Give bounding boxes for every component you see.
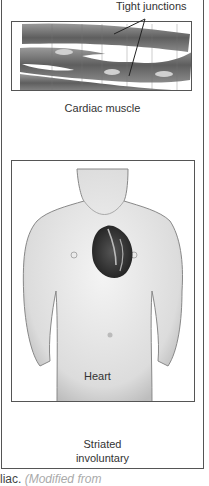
figure-footer-caption: liac. (Modified from xyxy=(0,472,101,486)
footer-caption-prefix: liac. xyxy=(0,472,21,486)
type-label-involuntary: involuntary xyxy=(0,452,205,464)
leader-lines xyxy=(0,0,209,100)
heart-torso-illustration xyxy=(11,160,195,402)
type-label-striated: Striated xyxy=(0,438,205,450)
cardiac-muscle-caption: Cardiac muscle xyxy=(0,102,205,114)
heart-label: Heart xyxy=(84,370,111,382)
torso-with-heart-icon xyxy=(12,161,195,402)
footer-caption-source: (Modified from xyxy=(25,472,102,486)
